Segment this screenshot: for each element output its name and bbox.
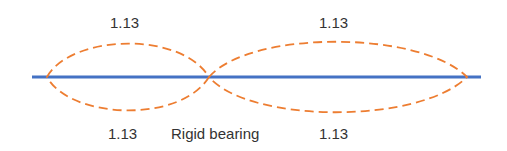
label-top-left: 1.13	[110, 15, 139, 30]
label-rigid-bearing: Rigid bearing	[171, 126, 259, 141]
label-bottom-right: 1.13	[319, 126, 348, 141]
label-bottom-left: 1.13	[108, 126, 137, 141]
label-top-right: 1.13	[319, 15, 348, 30]
